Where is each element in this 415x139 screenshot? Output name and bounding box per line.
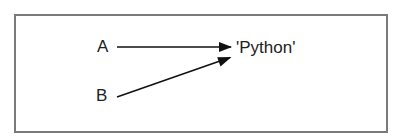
arrow-a-to-value-icon — [117, 42, 232, 52]
reference-arrows — [0, 0, 415, 139]
arrow-b-to-value-icon — [117, 57, 232, 97]
